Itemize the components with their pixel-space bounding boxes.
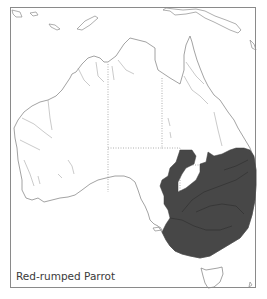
river-wa-4	[24, 160, 34, 186]
species-label: Red-rumped Parrot	[16, 270, 115, 282]
island-nw-2	[30, 12, 38, 16]
salt-lake-3	[58, 174, 62, 178]
island-kangaroo	[153, 227, 162, 231]
salt-lake-4	[168, 118, 170, 126]
river-wa-2	[48, 100, 52, 130]
australia-map	[0, 0, 267, 299]
river-nt-1	[118, 60, 134, 74]
new-guinea-coast	[163, 8, 241, 33]
river-qld-2	[184, 76, 208, 104]
river-nt-2	[112, 66, 114, 80]
tasmania-coastline	[201, 267, 223, 288]
island-timor-2	[77, 16, 98, 30]
river-kimberley-2	[96, 62, 104, 82]
species-range-area[interactable]	[160, 148, 256, 258]
river-kimberley-1	[78, 68, 90, 86]
river-wa-1	[22, 118, 52, 138]
salt-lake-5	[170, 132, 171, 138]
island-nw-1	[12, 10, 22, 17]
river-qld-3	[214, 112, 222, 146]
island-timor-1	[49, 24, 60, 30]
salt-lake-2	[38, 176, 40, 184]
salt-lake-1	[68, 160, 74, 174]
river-qld-1	[186, 62, 204, 84]
river-wa-3	[20, 140, 40, 150]
island-east-1	[250, 40, 256, 50]
island-bass-strait	[249, 282, 252, 287]
